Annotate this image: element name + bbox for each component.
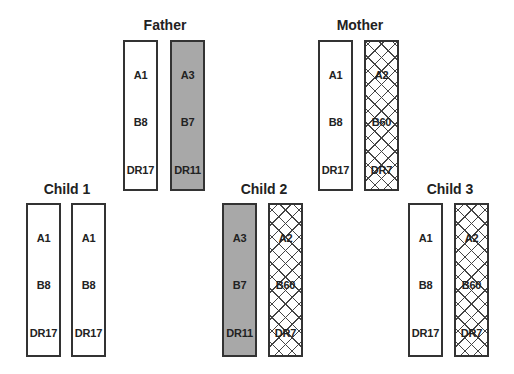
allele-b: B8 xyxy=(410,279,441,291)
allele-a: A3 xyxy=(172,69,203,81)
allele-b: B8 xyxy=(28,279,59,291)
allele-a: A1 xyxy=(125,69,156,81)
allele-dr: DR17 xyxy=(28,327,59,339)
allele-b: B7 xyxy=(172,116,203,128)
allele-dr: DR7 xyxy=(366,164,397,176)
allele-b: B7 xyxy=(224,279,255,291)
child3-haplotype-1: A1 B8 DR17 xyxy=(408,203,443,357)
child1-haplotype-2: A1 B8 DR17 xyxy=(71,203,106,357)
allele-b: B60 xyxy=(270,279,301,291)
allele-dr: DR11 xyxy=(172,164,203,176)
father-label: Father xyxy=(110,17,220,33)
mother-haplotype-1: A1 B8 DR17 xyxy=(318,40,353,191)
father-haplotype-2: A3 B7 DR11 xyxy=(170,40,205,191)
child3-label: Child 3 xyxy=(395,181,505,197)
allele-a: A1 xyxy=(28,232,59,244)
allele-dr: DR7 xyxy=(456,327,487,339)
allele-b: B60 xyxy=(456,279,487,291)
child3-haplotype-2: A2 B60 DR7 xyxy=(454,203,489,357)
allele-dr: DR17 xyxy=(320,164,351,176)
allele-a: A2 xyxy=(270,232,301,244)
child2-haplotype-1: A3 B7 DR11 xyxy=(222,203,257,357)
allele-b: B60 xyxy=(366,116,397,128)
father-haplotype-1: A1 B8 DR17 xyxy=(123,40,158,191)
allele-a: A3 xyxy=(224,232,255,244)
allele-a: A2 xyxy=(456,232,487,244)
child1-label: Child 1 xyxy=(12,181,122,197)
child2-haplotype-2: A2 B60 DR7 xyxy=(268,203,303,357)
allele-b: B8 xyxy=(73,279,104,291)
allele-a: A2 xyxy=(366,69,397,81)
allele-dr: DR11 xyxy=(224,327,255,339)
allele-dr: DR17 xyxy=(73,327,104,339)
allele-b: B8 xyxy=(125,116,156,128)
allele-a: A1 xyxy=(320,69,351,81)
allele-a: A1 xyxy=(410,232,441,244)
allele-a: A1 xyxy=(73,232,104,244)
allele-dr: DR17 xyxy=(410,327,441,339)
mother-haplotype-2: A2 B60 DR7 xyxy=(364,40,399,191)
allele-b: B8 xyxy=(320,116,351,128)
mother-label: Mother xyxy=(305,17,415,33)
child1-haplotype-1: A1 B8 DR17 xyxy=(26,203,61,357)
child2-label: Child 2 xyxy=(209,181,319,197)
allele-dr: DR17 xyxy=(125,164,156,176)
allele-dr: DR7 xyxy=(270,327,301,339)
